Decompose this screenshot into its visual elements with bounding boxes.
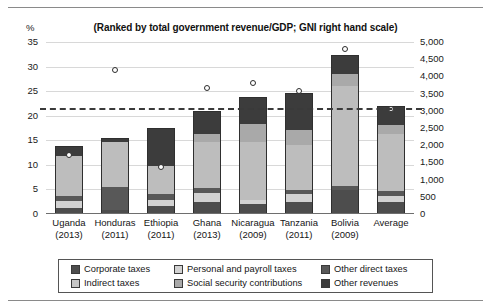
y-axis-right-tick: 3,000 (420, 106, 460, 116)
y-axis-left: 05101520253035 (2, 42, 38, 214)
legend-item[interactable]: Corporate taxes (71, 265, 150, 274)
bar-segment (148, 206, 174, 213)
x-axis-label-name: Uganda (52, 217, 85, 228)
stacked-bar[interactable] (331, 55, 359, 214)
bar-segment (240, 204, 266, 213)
legend-swatch-icon (71, 265, 80, 274)
gni-marker (158, 164, 164, 170)
y-axis-right-tick: 4,000 (420, 72, 460, 82)
plot-area (46, 42, 414, 214)
bar-segment (194, 193, 220, 202)
bar-slot (46, 42, 92, 214)
legend-swatch-icon (321, 279, 330, 288)
legend-item[interactable]: Personal and payroll taxes (174, 265, 297, 274)
x-axis-label: Average (368, 217, 414, 229)
y-axis-left-tick: 10 (2, 160, 38, 170)
stacked-bar[interactable] (147, 128, 175, 214)
x-axis-label: Ethiopia(2011) (138, 217, 184, 241)
x-axis-label: Uganda(2013) (46, 217, 92, 241)
gni-marker (66, 152, 72, 158)
x-axis-label-year: (2013) (184, 229, 230, 241)
bar-segment (194, 142, 220, 189)
legend-item[interactable]: Other revenues (321, 279, 398, 288)
legend-swatch-icon (174, 279, 183, 288)
bar-segment (240, 142, 266, 200)
bar-segment (240, 98, 266, 125)
legend-label: Indirect taxes (84, 279, 139, 288)
bar-segment (378, 134, 404, 191)
legend-label: Personal and payroll taxes (187, 265, 297, 274)
x-axis-label: Honduras(2011) (92, 217, 138, 241)
bar-segment (332, 190, 358, 213)
bar-segment (378, 202, 404, 213)
gni-marker (112, 67, 118, 73)
bar-slot (368, 42, 414, 214)
bar-segment (194, 112, 220, 135)
chart-title: (Ranked by total government revenue/GDP;… (0, 22, 491, 33)
y-axis-left-tick: 35 (2, 37, 38, 47)
bar-segment (194, 134, 220, 141)
y-axis-right-tick: 1,500 (420, 158, 460, 168)
stacked-bar[interactable] (193, 111, 221, 214)
bar-segment (240, 124, 266, 142)
bar-segment (102, 187, 128, 210)
x-axis-label: Tanzania(2011) (276, 217, 322, 241)
x-axis-label-year: (2011) (138, 229, 184, 241)
x-axis-label-name: Nicaragua (231, 217, 274, 228)
x-axis-labels: Uganda(2013)Honduras(2011)Ethiopia(2011)… (46, 217, 414, 251)
stacked-bar[interactable] (101, 138, 129, 214)
legend-row: Corporate taxesPersonal and payroll taxe… (65, 263, 426, 277)
bar-slot (92, 42, 138, 214)
chart-legend: Corporate taxesPersonal and payroll taxe… (58, 259, 433, 293)
gni-marker (296, 88, 302, 94)
legend-item[interactable]: Indirect taxes (71, 279, 139, 288)
y-axis-left-tick: 20 (2, 111, 38, 121)
x-axis-label-name: Average (373, 217, 408, 228)
x-axis-label: Bolivia(2009) (322, 217, 368, 241)
y-axis-right-tick: 1,000 (420, 175, 460, 185)
x-axis-label-name: Tanzania (280, 217, 318, 228)
x-axis-label-year: (2009) (322, 229, 368, 241)
y-axis-left-tick: 5 (2, 185, 38, 195)
bar-slot (184, 42, 230, 214)
legend-item[interactable]: Social security contributions (174, 279, 302, 288)
bar-segment (286, 202, 312, 213)
y-axis-right-tick: 2,500 (420, 123, 460, 133)
x-axis-label: Nicaragua(2009) (230, 217, 276, 241)
bar-segment (56, 201, 82, 208)
y-axis-left-tick: 0 (2, 209, 38, 219)
reference-line (40, 108, 422, 110)
bottom-divider-rule (8, 300, 483, 301)
bar-segment (332, 86, 358, 186)
y-axis-left-tick: 30 (2, 62, 38, 72)
x-axis-line (46, 213, 414, 214)
x-axis-label-name: Ethiopia (144, 217, 178, 228)
x-axis-label-name: Ghana (193, 217, 222, 228)
legend-label: Social security contributions (187, 279, 302, 288)
y-axis-right-tick: 0 (420, 209, 460, 219)
bar-slot (322, 42, 368, 214)
stacked-bar[interactable] (285, 93, 313, 214)
y-axis-left-tick: 25 (2, 86, 38, 96)
bar-segment (286, 145, 312, 190)
bar-segment (378, 125, 404, 135)
stacked-bar[interactable] (377, 106, 405, 214)
top-divider-rule (8, 7, 483, 8)
legend-swatch-icon (174, 265, 183, 274)
y-axis-right-tick: 4,500 (420, 54, 460, 64)
gni-marker (342, 46, 348, 52)
legend-label: Other revenues (334, 279, 398, 288)
bar-segment (148, 129, 174, 166)
bar-segment (332, 56, 358, 74)
y-axis-right-tick: 3,500 (420, 89, 460, 99)
bar-segment (286, 94, 312, 130)
bar-segment (56, 156, 82, 196)
stacked-bar[interactable] (239, 97, 267, 214)
gni-marker (250, 80, 256, 86)
bar-segment (332, 74, 358, 86)
bar-slot (276, 42, 322, 214)
legend-item[interactable]: Other direct taxes (321, 265, 407, 274)
x-axis-label-year: (2009) (230, 229, 276, 241)
legend-swatch-icon (321, 265, 330, 274)
bar-segment (194, 202, 220, 213)
